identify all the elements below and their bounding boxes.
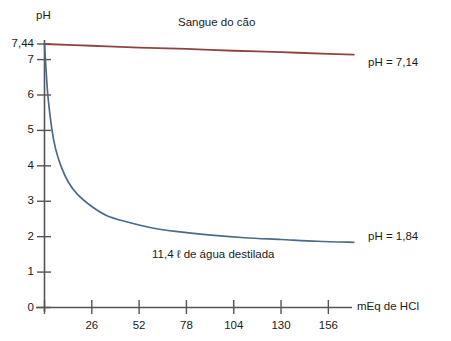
x-tick-label: 104 — [214, 320, 254, 332]
y-axis-title: pH — [36, 10, 51, 22]
x-tick-label: 78 — [166, 320, 206, 332]
y-tick-label: 4 — [2, 160, 34, 172]
y-tick-label: 7 — [2, 54, 34, 66]
series-line-agua-destilada — [45, 44, 354, 242]
x-axis-title: mEq de HCl — [357, 301, 419, 313]
y-tick-label: 3 — [2, 195, 34, 207]
y-tick-label: 2 — [2, 231, 34, 243]
ph-titration-chart: pH mEq de HCl 7,4476543210 2652781041301… — [0, 0, 451, 341]
y-tick-label: 1 — [2, 266, 34, 278]
series-line-sangue-do-cao — [45, 44, 354, 55]
annotation-agua-destilada: 11,4 ℓ de água destilada — [152, 249, 274, 261]
series-end-label-agua-destilada: pH = 1,84 — [368, 231, 418, 243]
x-tick-label: 52 — [119, 320, 159, 332]
x-tick-label: 26 — [72, 320, 112, 332]
x-tick-label: 130 — [261, 320, 301, 332]
series-end-label-sangue-do-cao: pH = 7,14 — [368, 57, 418, 69]
annotation-sangue-do-cao: Sangue do cão — [178, 17, 255, 29]
x-tick-label: 156 — [308, 320, 348, 332]
y-tick-label: 0 — [2, 302, 34, 314]
y-tick-label: 5 — [2, 124, 34, 136]
y-tick-label: 7,44 — [2, 38, 34, 50]
y-tick-label: 6 — [2, 89, 34, 101]
plot-area — [0, 0, 451, 341]
